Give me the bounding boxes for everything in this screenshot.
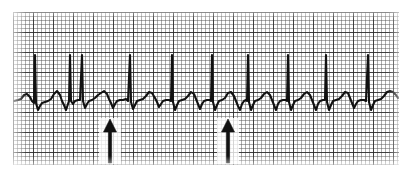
arrow-up-icon-1: [99, 118, 121, 164]
arrow-up-icon-2: [217, 118, 239, 164]
annotation-arrow-layer: [0, 0, 412, 178]
ecg-screenshot: [0, 0, 412, 178]
